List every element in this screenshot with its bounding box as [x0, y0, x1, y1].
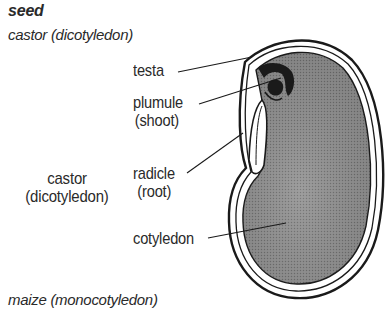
castor-seed-illustration: [0, 0, 388, 320]
leader-radicle: [187, 133, 243, 173]
leader-testa: [178, 57, 252, 72]
